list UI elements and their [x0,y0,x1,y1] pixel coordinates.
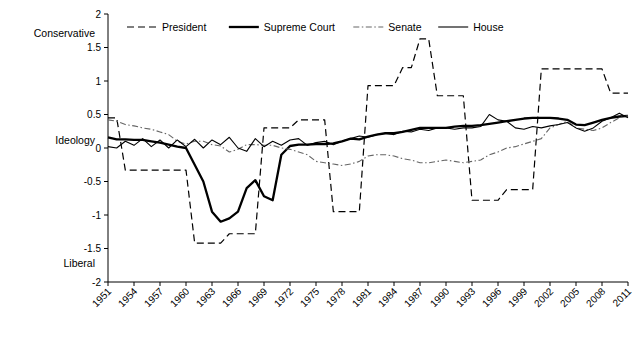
x-tick-label: 1969 [246,285,270,309]
x-tick-label: 1960 [168,285,192,309]
y-tick-label: -1.5 [84,243,102,254]
x-tick-label: 1984 [376,285,400,309]
series-line-senate [108,116,628,166]
y-tick-label: -1 [92,210,101,221]
x-tick-label: 1981 [350,285,374,309]
legend-label-president: President [162,21,206,33]
series-line-supreme-court [108,116,628,222]
x-tick-label: 2005 [558,285,582,309]
x-tick-label: 1975 [298,285,322,309]
x-axis-ticks: 1951195419571960196319661969197219751978… [90,282,634,309]
x-tick-label: 2002 [532,285,556,309]
x-tick-label: 2011 [610,285,633,308]
legend-label-house: House [473,21,504,33]
y-annotation-ideology: Ideology [55,134,95,146]
y-axis-annotations: ConservativeIdeologyLiberal [34,27,96,269]
x-tick-label: 1978 [324,285,348,309]
x-tick-label: 1987 [402,285,426,309]
ideology-line-chart: -2-1.5-1-0.500.511.52ConservativeIdeolog… [0,0,641,341]
x-tick-label: 1963 [194,285,218,309]
x-tick-label: 1999 [506,285,530,309]
y-tick-label: 1 [95,76,101,87]
y-tick-label: 0.5 [87,109,101,120]
x-tick-label: 1954 [116,285,140,309]
x-tick-label: 1957 [142,285,166,309]
y-tick-label: 2 [95,9,101,20]
y-tick-label: 1.5 [87,42,101,53]
x-tick-label: 1951 [90,285,114,309]
x-tick-label: 1993 [454,285,478,309]
x-tick-label: 1972 [272,285,296,309]
series-line-president [108,39,628,243]
y-axis-ticks: -2-1.5-1-0.500.511.52 [84,9,108,288]
series-group [108,39,628,243]
legend: PresidentSupreme CourtSenateHouse [127,21,504,33]
y-tick-label: -0.5 [84,176,102,187]
chart-container: -2-1.5-1-0.500.511.52ConservativeIdeolog… [0,0,641,341]
legend-label-senate: Senate [388,21,421,33]
y-annotation-conservative: Conservative [34,27,95,39]
x-tick-label: 1966 [220,285,244,309]
x-tick-label: 1996 [480,285,504,309]
x-tick-label: 2008 [584,285,608,309]
x-tick-label: 1990 [428,285,452,309]
y-annotation-liberal: Liberal [63,257,95,269]
legend-label-supreme-court: Supreme Court [264,21,335,33]
y-tick-label: -2 [92,277,101,288]
y-tick-label: 0 [95,143,101,154]
